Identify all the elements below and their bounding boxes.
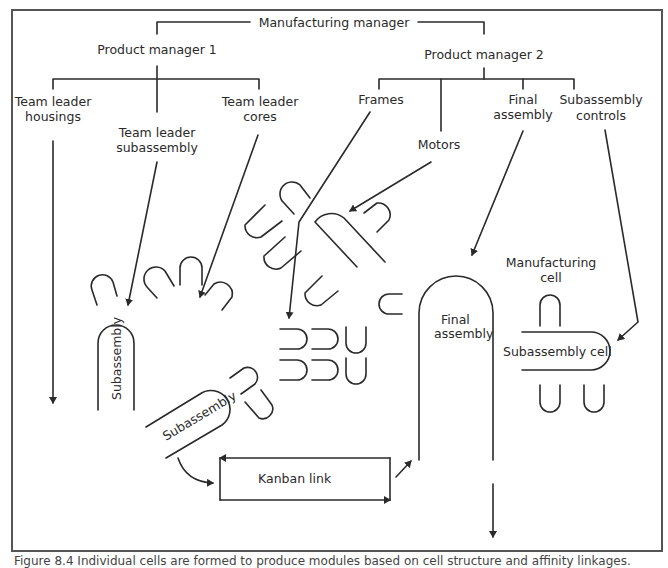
- frames-cell: [280, 327, 366, 384]
- final-assembly-label-1: Final: [441, 312, 470, 327]
- motors-label: Motors: [418, 137, 461, 152]
- frames-label: Frames: [358, 92, 403, 107]
- final-assembly-report-label-1: Final: [509, 92, 538, 107]
- motors-cell: [245, 182, 402, 314]
- kanban-link: Kanban link: [220, 458, 411, 500]
- manufacturing-cell: Manufacturing cell Subassembly cell: [503, 255, 612, 412]
- team-leader-subassembly-label-2: subassembly: [116, 140, 198, 155]
- product-manager-1-label: Product manager 1: [97, 42, 217, 57]
- final-assembly-report-label-2: assembly: [493, 107, 553, 122]
- subassembly-diagonal-cell: Subassembly: [146, 367, 273, 483]
- final-assembly-cell: Final assembly: [419, 276, 494, 537]
- org-chart: Manufacturing manager Product manager 1 …: [14, 15, 643, 155]
- manufacturing-cell-label-2: cell: [540, 270, 562, 285]
- team-leader-housings-label-1: Team leader: [14, 94, 92, 109]
- team-leader-subassembly-label-1: Team leader: [118, 125, 196, 140]
- team-leader-cores-label-1: Team leader: [221, 94, 299, 109]
- subassembly-diagonal-label: Subassembly: [160, 388, 240, 444]
- team-leader-housings-label-2: housings: [25, 109, 81, 124]
- figure-caption: Figure 8.4 Individual cells are formed t…: [14, 554, 631, 568]
- kanban-link-label: Kanban link: [258, 471, 332, 486]
- manufacturing-manager-label: Manufacturing manager: [259, 15, 411, 30]
- subassembly-cell-label: Subassembly cell: [503, 344, 612, 359]
- final-assembly-label-2: assembly: [434, 326, 494, 341]
- subassembly-controls-label-1: Subassembly: [559, 92, 643, 107]
- subassembly-vertical-cell: Subassembly: [98, 316, 134, 410]
- subassembly-vertical-label: Subassembly: [109, 316, 124, 400]
- product-manager-2-label: Product manager 2: [424, 47, 544, 62]
- manufacturing-cell-label-1: Manufacturing: [506, 255, 597, 270]
- subassembly-controls-label-2: controls: [576, 108, 626, 123]
- team-leader-cores-label-2: cores: [243, 109, 277, 124]
